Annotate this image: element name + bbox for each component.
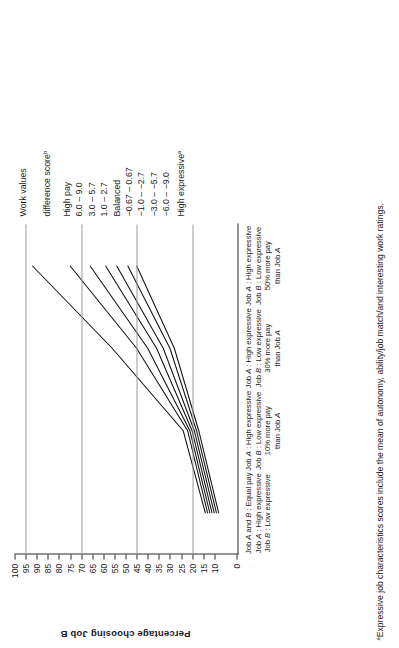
y-axis-tick-label: 65	[87, 563, 97, 573]
figure-footnote: aExpressive job characteristics scores i…	[372, 6, 386, 640]
legend-item: −3.0 – −5.7	[147, 8, 159, 216]
legend-item-label: High pay	[61, 181, 71, 216]
x-axis-category-line: Job B : Low expressive	[253, 225, 263, 305]
x-axis-category-line: than Job A	[272, 390, 282, 470]
legend-items: High pay6.0 – 9.03.0 – 5.71.0 – 2.7Balan…	[60, 8, 187, 216]
y-axis-tick	[236, 554, 237, 559]
x-axis-line	[237, 223, 238, 554]
y-axis-tick-label: 20	[187, 563, 197, 573]
legend-title: Work values difference scoreb	[6, 8, 53, 216]
legend-item: 3.0 – 5.7	[85, 8, 97, 216]
x-axis-category-line: Job A : High expressive	[243, 225, 253, 305]
y-axis-tick	[103, 554, 104, 559]
x-axis-category-line: Job A : High expressive	[243, 390, 253, 470]
x-axis-category-line: than Job A	[272, 308, 282, 388]
legend-item-label: High expressive	[176, 153, 186, 216]
y-axis-tick-label: 45	[131, 563, 141, 573]
y-axis-tick-label: 25	[176, 563, 186, 573]
x-axis-category-line: 30% more pay	[262, 308, 272, 388]
series-line	[116, 265, 214, 513]
y-axis-tick	[47, 554, 48, 559]
legend-title-line2: difference score	[42, 154, 52, 216]
legend-item: −1.0 – −2.7	[134, 8, 146, 216]
legend-title-footnote-marker: b	[41, 150, 47, 153]
y-axis-title: Percentage choosing Job B	[60, 629, 190, 640]
y-axis-tick-label: 40	[142, 563, 152, 573]
series-line	[136, 265, 218, 513]
legend-item-label: 3.0 – 5.7	[86, 182, 96, 216]
y-axis-tick-label: 0	[231, 563, 241, 568]
figure-canvas: Percentage choosing Job B 01015202530354…	[0, 0, 399, 648]
legend: Work values difference scoreb High pay6.…	[6, 8, 187, 216]
gridline	[136, 224, 137, 554]
x-axis-category-label: Job A and B : Equal payJob A : High expr…	[243, 472, 272, 554]
y-axis-tick	[25, 554, 26, 559]
rotated-figure-wrapper: Percentage choosing Job B 01015202530354…	[0, 0, 399, 648]
y-axis-tick-label: 80	[53, 563, 63, 573]
y-axis-tick-label: 50	[120, 563, 130, 573]
y-axis-tick	[58, 554, 59, 559]
y-axis-tick	[81, 554, 82, 559]
y-axis-tick-label: 85	[42, 563, 52, 573]
x-axis-category-line: Job B : Low expressive	[262, 472, 272, 554]
footnote-text: Expressive job characteristics scores in…	[375, 203, 385, 637]
y-axis-tick-label: 90	[31, 563, 41, 573]
gridline	[81, 224, 82, 554]
y-axis-tick	[181, 554, 182, 559]
x-axis-category-line: Job B : Low expressive	[253, 390, 263, 470]
legend-item-label: −0.67 – 0.67	[123, 167, 133, 216]
legend-title-line1: Work values	[17, 168, 27, 216]
y-axis-tick-label: 10	[209, 563, 219, 573]
y-axis-tick	[136, 554, 137, 559]
x-axis-category-label: Job A : High expressiveJob B : Low expre…	[243, 390, 281, 470]
legend-item: High pay	[60, 8, 72, 216]
legend-item: −6.0 – −9.0	[159, 8, 171, 216]
x-axis-category-line: Job A and B : Equal pay	[243, 472, 253, 554]
series-lines	[14, 224, 236, 554]
y-axis-tick	[192, 554, 193, 559]
y-axis-tick-label: 15	[198, 563, 208, 573]
legend-item-label: −3.0 – −5.7	[148, 171, 158, 216]
y-axis-tick-label: 55	[109, 563, 119, 573]
y-axis-tick-label: 30	[164, 563, 174, 573]
legend-item: Balanced	[110, 8, 122, 216]
x-axis-category-line: Job A : High expressive	[253, 472, 263, 554]
legend-item-label: Balanced	[111, 179, 121, 216]
y-axis-tick-label: 70	[76, 563, 86, 573]
y-axis-tick	[125, 554, 126, 559]
gridline	[192, 224, 193, 554]
y-axis-tick	[169, 554, 170, 559]
y-axis-tick	[14, 554, 15, 559]
y-axis-tick	[92, 554, 93, 559]
y-axis-tick	[114, 554, 115, 559]
y-axis-tick-label: 60	[98, 563, 108, 573]
y-axis-tick-label: 75	[65, 563, 75, 573]
y-axis-tick	[203, 554, 204, 559]
x-axis-category-label: Job A : High expressiveJob B : Low expre…	[243, 308, 281, 388]
legend-item-footnote-marker: a	[175, 150, 181, 153]
legend-item: High expressivea	[172, 8, 187, 216]
legend-item-label: 1.0 – 2.7	[98, 182, 108, 216]
x-axis-category-label: Job A : High expressiveJob B : Low expre…	[243, 225, 281, 305]
legend-item-label: −1.0 – −2.7	[135, 171, 145, 216]
x-axis-category-line: Job A : High expressive	[243, 308, 253, 388]
y-axis-tick-label: 100	[9, 563, 19, 578]
x-axis-category-line: than Job A	[272, 225, 282, 305]
x-axis-category-line: 10% more pay	[262, 390, 272, 470]
x-axis-category-line: Job B : Low expressive	[253, 308, 263, 388]
y-axis-tick	[147, 554, 148, 559]
x-axis-category-labels: Job A and B : Equal payJob A : High expr…	[243, 223, 291, 554]
legend-item-label: −6.0 – −9.0	[160, 171, 170, 216]
x-axis-category-line: 50% more pay	[262, 225, 272, 305]
y-axis-tick	[70, 554, 71, 559]
legend-item: 6.0 – 9.0	[72, 8, 84, 216]
legend-item: −0.67 – 0.67	[122, 8, 134, 216]
gridline	[25, 224, 26, 554]
plot-area: 0101520253035404550556065707580859095100	[14, 224, 236, 554]
y-axis-tick-label: 35	[153, 563, 163, 573]
y-axis-tick	[36, 554, 37, 559]
y-axis-tick	[214, 554, 215, 559]
y-axis-tick	[158, 554, 159, 559]
y-axis-tick-label: 95	[20, 563, 30, 573]
legend-item: 1.0 – 2.7	[97, 8, 109, 216]
